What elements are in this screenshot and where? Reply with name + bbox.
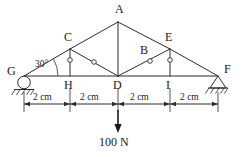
pinned-support-icon [206,76,229,94]
node-label-G: G [7,65,16,77]
angle-arc-30deg [54,59,58,76]
pin-joint-icon [68,58,73,63]
angle-label-30deg: 30° [35,60,48,70]
node-label-B: B [140,44,148,56]
truss-diagram: A C E B G H D I F 30° 2 cm 2 cm 2 cm 2 c… [0,0,242,157]
node-label-I: I [166,79,170,91]
dimension-label: 2 cm [180,93,199,103]
node-label-D: D [113,79,122,91]
node-label-F: F [224,63,231,75]
node-label-E: E [165,31,172,43]
load-label: 100 N [99,136,129,148]
member-E-F [170,49,218,76]
node-label-A: A [115,3,124,15]
dimension-label: 2 cm [130,93,149,103]
pin-joint-icon [92,60,97,65]
pin-joint-markers [68,58,173,65]
dimension-label: 2 cm [80,93,99,103]
pin-joint-icon [168,58,173,63]
member-C-A [70,22,118,49]
roller-support-icon [12,76,35,95]
pin-joint-icon [148,59,153,64]
truss-members [24,22,218,76]
node-label-C: C [64,31,72,43]
load-arrow-icon [114,110,121,133]
node-label-H: H [64,79,73,91]
dimension-label: 2 cm [33,93,52,103]
